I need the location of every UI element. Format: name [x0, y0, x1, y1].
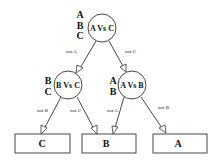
leaf-b: B	[82, 134, 136, 153]
edge-left-leafb	[77, 97, 94, 129]
node-left-candidate: C	[44, 86, 51, 97]
edge-right-leafa	[141, 97, 162, 128]
node-left-candidate: B	[45, 75, 52, 86]
arrowhead-left-leafc	[41, 125, 47, 134]
node-right-candidate: B	[110, 86, 117, 97]
leaf-a: A	[153, 134, 207, 153]
leaf-c-label: C	[38, 138, 45, 149]
node-root: A Vs C A B C	[76, 9, 116, 42]
ddag-diagram: not A not C not B not C not A not B A Vs…	[0, 0, 220, 161]
arrowhead-root-left	[76, 65, 83, 73]
node-left-label: B Vs C	[56, 81, 80, 90]
edge-label-right-leafb: not A	[107, 108, 118, 113]
edge-root-right	[109, 41, 124, 68]
node-right: A Vs B A B	[109, 71, 146, 99]
node-left: B Vs C B C	[44, 71, 82, 99]
arrowhead-right-leafa	[159, 125, 166, 133]
edge-root-left	[79, 41, 96, 70]
node-root-label: A Vs C	[90, 24, 114, 33]
arrowhead-root-right	[120, 64, 126, 72]
arrowhead-right-leafb	[112, 126, 118, 134]
leaf-c: C	[15, 134, 70, 153]
node-right-candidate: A	[109, 75, 117, 86]
edge-label-root-right: not C	[125, 49, 137, 54]
edge-label-right-leafa: not B	[158, 105, 170, 110]
leaf-b-label: B	[103, 138, 110, 149]
leaf-a-label: A	[174, 138, 182, 149]
edge-label-root-left: not A	[66, 49, 77, 54]
node-right-label: A Vs B	[120, 81, 144, 90]
node-root-candidate: C	[76, 30, 83, 41]
edge-left-leafc	[44, 97, 61, 129]
arrowhead-left-leafb	[91, 125, 97, 134]
node-root-candidate: A	[76, 9, 84, 20]
edge-label-left-leafb: not C	[70, 108, 82, 113]
edge-label-left-leafc: not B	[37, 108, 49, 113]
